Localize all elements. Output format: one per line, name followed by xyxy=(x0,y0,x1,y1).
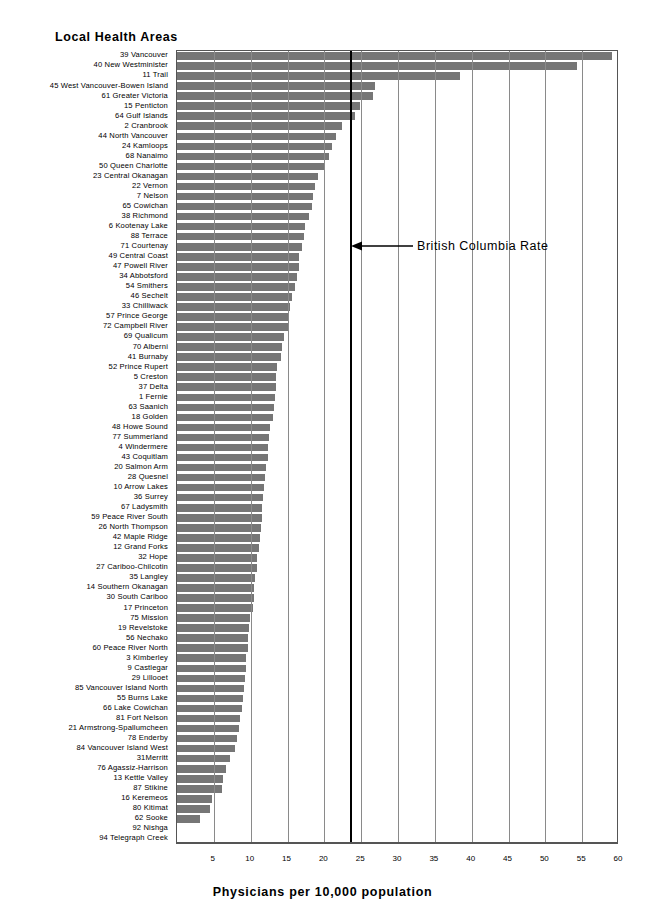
category-label: 66 Lake Cowichan xyxy=(103,703,168,712)
bar xyxy=(177,102,360,110)
bar xyxy=(177,293,292,301)
category-label: 15 Penticton xyxy=(124,101,168,110)
value-tick-label: 60 xyxy=(614,854,623,863)
bar xyxy=(177,353,281,361)
category-label: 67 Ladysmith xyxy=(121,502,168,511)
bar xyxy=(177,253,299,261)
category-label: 63 Saanich xyxy=(129,402,169,411)
category-label: 71 Courtenay xyxy=(121,241,168,250)
physicians-bar-chart: Local Health Areas 39 Vancouver40 New We… xyxy=(0,0,645,924)
bar xyxy=(177,92,373,100)
category-label: 5 Creston xyxy=(134,372,168,381)
bar xyxy=(177,263,299,271)
bar xyxy=(177,183,315,191)
bar xyxy=(177,133,336,141)
bar xyxy=(177,695,243,703)
gridline-30 xyxy=(398,51,399,842)
category-label: 80 Kitimat xyxy=(133,803,168,812)
category-label: 92 Nishga xyxy=(132,823,168,832)
category-label: 22 Vernon xyxy=(132,181,168,190)
category-label: 81 Fort Nelson xyxy=(116,713,168,722)
bar xyxy=(177,424,270,432)
category-label: 27 Cariboo-Chilcotin xyxy=(96,562,168,571)
value-tick-label: 55 xyxy=(577,854,586,863)
bar xyxy=(177,725,239,733)
category-label: 1 Fernie xyxy=(139,392,168,401)
value-tick-label: 30 xyxy=(393,854,402,863)
bar xyxy=(177,805,210,813)
category-label: 55 Burns Lake xyxy=(117,693,168,702)
bar xyxy=(177,474,265,482)
bar xyxy=(177,193,313,201)
bar xyxy=(177,434,269,442)
bar xyxy=(177,654,246,662)
category-label: 28 Quesnel xyxy=(128,472,168,481)
bar xyxy=(177,62,577,70)
bar xyxy=(177,675,245,683)
category-label: 57 Prince George xyxy=(106,311,168,320)
category-label: 34 Abbotsford xyxy=(119,271,168,280)
bar xyxy=(177,574,255,582)
category-label: 4 Windermere xyxy=(119,442,169,451)
bar xyxy=(177,705,242,713)
category-label: 45 West Vancouver-Bowen Island xyxy=(50,81,168,90)
category-label: 88 Terrace xyxy=(131,231,168,240)
value-tick-label: 5 xyxy=(211,854,215,863)
category-label: 85 Vancouver Island North xyxy=(75,683,168,692)
category-label: 36 Surrey xyxy=(134,492,168,501)
value-tick-label: 40 xyxy=(466,854,475,863)
bar xyxy=(177,534,260,542)
category-label: 78 Enderby xyxy=(128,733,168,742)
bar xyxy=(177,283,295,291)
category-label: 30 South Cariboo xyxy=(106,592,168,601)
bar xyxy=(177,153,329,161)
category-label: 56 Nechako xyxy=(126,633,168,642)
value-tick-label: 10 xyxy=(245,854,254,863)
category-label: 77 Summerland xyxy=(112,432,168,441)
bar xyxy=(177,173,318,181)
category-label: 50 Queen Charlotte xyxy=(99,161,168,170)
category-label: 46 Sechelt xyxy=(131,291,168,300)
category-label: 76 Agassiz-Harrison xyxy=(97,763,168,772)
bar xyxy=(177,112,355,120)
bar xyxy=(177,604,253,612)
category-label: 11 Trail xyxy=(142,70,168,79)
category-label: 47 Powell River xyxy=(113,261,168,270)
category-label: 72 Campbell River xyxy=(103,321,168,330)
gridline-55 xyxy=(582,51,583,842)
bar xyxy=(177,383,276,391)
bar xyxy=(177,454,268,462)
category-label: 33 Chilliwack xyxy=(122,301,168,310)
value-axis-line xyxy=(176,843,618,844)
bar xyxy=(177,82,375,90)
bar xyxy=(177,524,261,532)
gridline-10 xyxy=(251,51,252,842)
left-arrow-icon xyxy=(351,240,413,252)
bar xyxy=(177,544,259,552)
category-label: 14 Southern Okanagan xyxy=(86,582,168,591)
value-axis-title: Physicians per 10,000 population xyxy=(0,885,645,899)
value-tick-label: 35 xyxy=(429,854,438,863)
gridline-5 xyxy=(214,51,215,842)
category-label: 24 Kamloops xyxy=(122,141,168,150)
gridline-25 xyxy=(361,51,362,842)
category-label: 94 Telegraph Creek xyxy=(99,833,168,842)
bar xyxy=(177,343,282,351)
bar xyxy=(177,313,289,321)
category-label: 62 Sooke xyxy=(135,813,168,822)
bar xyxy=(177,564,257,572)
bar xyxy=(177,414,273,422)
category-label: 23 Central Okanagan xyxy=(93,171,168,180)
category-label: 69 Qualicum xyxy=(124,331,168,340)
gridline-15 xyxy=(288,51,289,842)
british-columbia-rate-line xyxy=(350,51,352,842)
bar xyxy=(177,775,223,783)
gridline-20 xyxy=(324,51,325,842)
bar xyxy=(177,665,246,673)
bar xyxy=(177,122,342,130)
category-label: 65 Cowichan xyxy=(122,201,168,210)
category-label: 54 Smithers xyxy=(126,281,168,290)
bar xyxy=(177,644,248,652)
bar xyxy=(177,394,275,402)
category-label: 17 Princeton xyxy=(124,603,168,612)
